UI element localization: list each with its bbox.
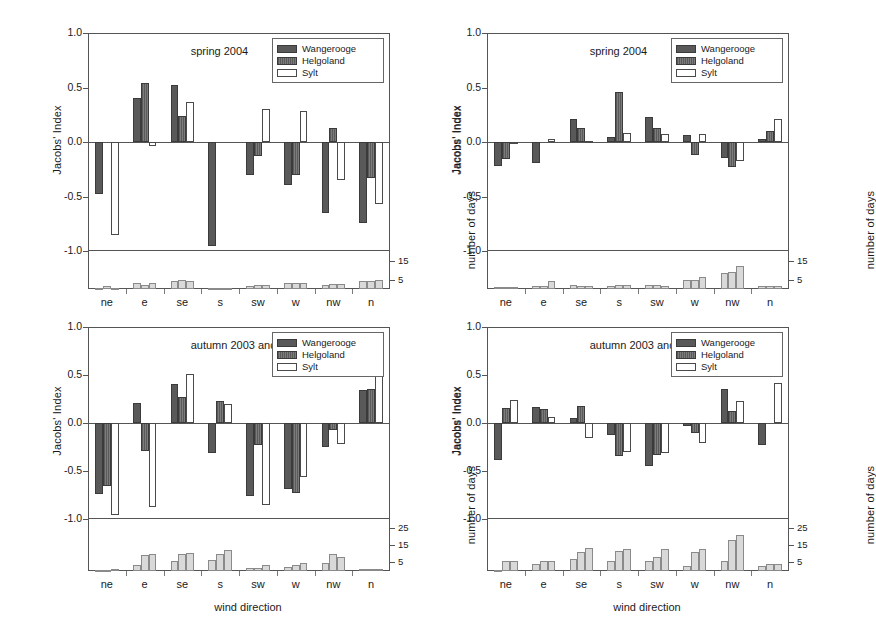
legend-swatch-helg: [676, 351, 696, 359]
bar-bottom-right-se-wang: [570, 418, 578, 423]
days-bar-bottom-right-w-helg: [691, 552, 699, 571]
days-bar-bottom-right-s-helg: [615, 551, 623, 571]
days-bar-bottom-right-se-helg: [577, 552, 585, 571]
days-bar-bottom-right-e-sylt: [548, 561, 556, 571]
bar-bottom-right-nw-sylt: [736, 401, 744, 423]
x-category-label-bottom-right-w: w: [675, 578, 715, 590]
bar-bottom-right-e-helg: [540, 409, 548, 423]
bar-bottom-right-se-helg: [577, 406, 585, 423]
bar-bottom-right-ne-sylt: [510, 400, 518, 423]
x-category-label-bottom-right-sw: sw: [637, 578, 677, 590]
days-bar-bottom-right-e-helg: [540, 561, 548, 571]
bar-bottom-right-s-wang: [607, 423, 615, 435]
days-bar-bottom-right-nw-wang: [721, 561, 729, 571]
days-bar-bottom-right-ne-wang: [494, 570, 502, 572]
days-bar-bottom-right-n-sylt: [774, 564, 782, 571]
y-tick-bottom-right-4: [482, 519, 487, 520]
days-tick-bottom-right-0: [789, 528, 794, 529]
bar-bottom-right-nw-helg: [728, 411, 736, 423]
category-separator-bottom-right-5: [676, 571, 677, 576]
days-bar-bottom-right-e-wang: [532, 564, 540, 571]
zero-line-bottom-right: [487, 423, 789, 424]
category-separator-bottom-right-4: [638, 571, 639, 576]
legend-swatch-wang: [676, 339, 696, 347]
category-separator-bottom-right-6: [714, 571, 715, 576]
category-separator-bottom-right-2: [563, 571, 564, 576]
legend-label-helg: Helgoland: [701, 350, 744, 360]
x-category-label-bottom-right-nw: nw: [712, 578, 752, 590]
days-bar-bottom-right-ne-sylt: [510, 561, 518, 571]
bar-bottom-right-ne-helg: [502, 408, 510, 423]
days-bar-bottom-right-s-wang: [607, 561, 615, 571]
legend-row-bottom-right-sylt: Sylt: [676, 361, 777, 372]
bar-bottom-right-s-sylt: [623, 423, 631, 452]
bar-bottom-right-w-sylt: [699, 423, 707, 443]
days-bar-bottom-right-ne-helg: [502, 561, 510, 571]
bar-bottom-right-e-wang: [532, 407, 540, 423]
days-bar-bottom-right-s-sylt: [623, 549, 631, 571]
bar-bottom-right-ne-wang: [494, 423, 502, 460]
legend-bottom-right: WangeroogeHelgolandSylt: [671, 332, 783, 377]
days-bar-bottom-right-sw-sylt: [661, 549, 669, 571]
bar-bottom-right-sw-wang: [645, 423, 653, 466]
x-axis-title-bottom-right: wind direction: [602, 601, 692, 613]
bar-bottom-right-nw-wang: [721, 389, 729, 423]
y-tick-bottom-right-0: [482, 327, 487, 328]
bar-bottom-right-n-sylt: [774, 383, 782, 423]
days-tick-bottom-right-2: [789, 562, 794, 563]
legend-row-bottom-right-wang: Wangerooge: [676, 337, 777, 348]
x-category-label-bottom-right-se: se: [561, 578, 601, 590]
bar-bottom-right-w-wang: [683, 423, 691, 426]
x-category-label-bottom-right-ne: ne: [486, 578, 526, 590]
days-tick-label-bottom-right-1: 15: [797, 539, 819, 550]
legend-row-bottom-right-helg: Helgoland: [676, 349, 777, 360]
days-axis-title-bottom-right: number of days: [864, 450, 876, 560]
days-bar-bottom-right-nw-sylt: [736, 535, 744, 571]
days-bar-bottom-right-sw-wang: [645, 561, 653, 571]
days-tick-label-bottom-right-0: 25: [797, 522, 819, 533]
days-bar-bottom-right-w-sylt: [699, 549, 707, 571]
days-bar-bottom-right-n-wang: [758, 566, 766, 571]
y-tick-bottom-right-2: [482, 423, 487, 424]
x-category-label-bottom-right-s: s: [599, 578, 639, 590]
bar-bottom-right-se-sylt: [585, 423, 593, 438]
bar-bottom-right-w-helg: [691, 423, 699, 433]
category-separator-bottom-right-7: [751, 571, 752, 576]
days-bar-bottom-right-se-wang: [570, 559, 578, 571]
bar-bottom-right-sw-helg: [653, 423, 661, 455]
x-category-label-bottom-right-n: n: [750, 578, 790, 590]
y-axis-title-bottom-right: Jacobs' Index: [450, 366, 462, 476]
bar-bottom-right-s-helg: [615, 423, 623, 456]
bar-bottom-right-n-wang: [758, 423, 766, 445]
bar-bottom-right-e-sylt: [548, 417, 556, 423]
x-category-label-bottom-right-e: e: [524, 578, 564, 590]
legend-label-sylt: Sylt: [701, 362, 717, 372]
y-tick-label-bottom-right-4: -1.0: [449, 512, 481, 524]
y-tick-bottom-right-3: [482, 471, 487, 472]
days-bar-bottom-right-n-helg: [766, 564, 774, 571]
category-separator-bottom-right-1: [525, 571, 526, 576]
legend-label-wang: Wangerooge: [701, 338, 755, 348]
y-tick-bottom-right-1: [482, 375, 487, 376]
days-bar-bottom-right-w-wang: [683, 566, 691, 571]
days-tick-label-bottom-right-2: 5: [797, 556, 819, 567]
category-separator-bottom-right-3: [600, 571, 601, 576]
y-tick-label-bottom-right-0: 1.0: [449, 320, 481, 332]
days-bar-bottom-right-se-sylt: [585, 548, 593, 571]
days-bar-bottom-right-sw-helg: [653, 557, 661, 571]
bar-bottom-right-sw-sylt: [661, 423, 669, 453]
days-bar-bottom-right-nw-helg: [728, 540, 736, 571]
days-tick-bottom-right-1: [789, 545, 794, 546]
legend-swatch-sylt: [676, 363, 696, 371]
